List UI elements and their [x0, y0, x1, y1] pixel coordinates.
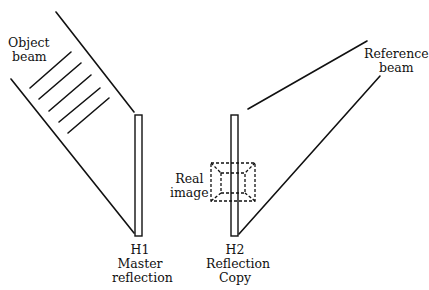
reference-beam-label: Reference beam — [364, 47, 429, 75]
object-beam-lower-edge — [11, 79, 134, 233]
h2-plate — [231, 115, 238, 236]
h1-label-title: H1 — [112, 243, 168, 257]
h1-plate — [135, 115, 142, 236]
object-beam-label-line2: beam — [8, 50, 50, 64]
h2-label-line2: Reflection — [206, 257, 264, 271]
h1-label-line3: reflection — [112, 271, 168, 285]
reference-beam-label-line1: Reference — [364, 47, 429, 61]
reference-beam-label-line2: beam — [364, 61, 429, 75]
h2-label-title: H2 — [206, 243, 264, 257]
h1-label: H1 Master reflection — [112, 243, 168, 285]
real-image-box — [211, 163, 255, 201]
object-beam-upper-edge — [56, 12, 134, 112]
object-beam-label-line1: Object — [8, 36, 50, 50]
object-beam-label: Object beam — [8, 36, 50, 64]
real-image-label-line1: Real — [170, 172, 209, 186]
h1-label-line2: Master — [112, 257, 168, 271]
h2-label: H2 Reflection Copy — [206, 243, 264, 285]
real-image-label-line2: image — [170, 186, 209, 200]
reference-beam-upper-edge — [248, 41, 367, 109]
reference-beam-lower-edge — [239, 76, 380, 234]
real-image-label: Real image — [170, 172, 209, 200]
h2-label-line3: Copy — [206, 271, 264, 285]
